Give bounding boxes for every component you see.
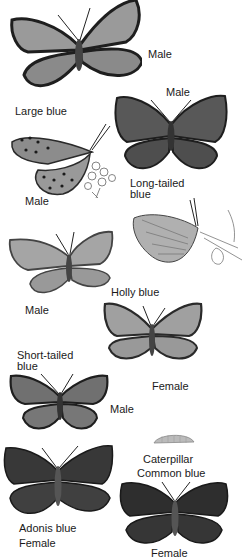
- label-female: Female: [151, 547, 188, 559]
- holly-blue-female-open-wing: [103, 296, 203, 366]
- adonis-blue-female-open-wing: [2, 440, 114, 522]
- label-short-tailed-blue-line2: blue: [17, 360, 38, 372]
- label-male: Male: [110, 403, 134, 415]
- label-adonis-blue: Adonis blue: [19, 522, 77, 534]
- holly-blue-male-open-wing: [8, 230, 114, 298]
- label-caterpillar: Caterpillar: [143, 453, 193, 465]
- common-blue-female-open-wing: [118, 478, 230, 550]
- caterpillar-illustration: [152, 432, 196, 446]
- short-tailed-blue-male-open-wing: [9, 372, 109, 434]
- large-blue-male-side-view: [8, 122, 123, 200]
- label-female: Female: [152, 380, 189, 392]
- long-tailed-blue-male-open-wing: [113, 92, 229, 178]
- label-female: Female: [19, 537, 56, 549]
- label-male: Male: [25, 304, 49, 316]
- label-large-blue: Large blue: [15, 105, 67, 117]
- large-blue-male-open-wing: [8, 0, 142, 95]
- label-male: Male: [25, 195, 49, 207]
- label-male: Male: [148, 48, 172, 60]
- holly-blue-side-view: [128, 198, 246, 270]
